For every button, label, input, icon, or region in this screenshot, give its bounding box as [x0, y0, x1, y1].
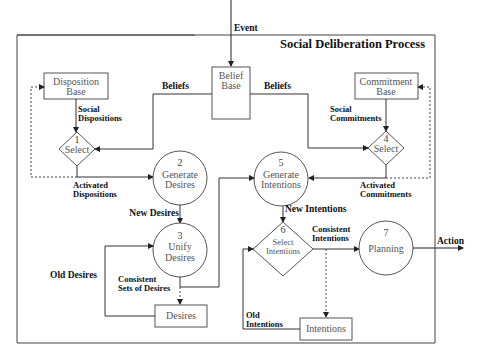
svg-text:2: 2: [178, 157, 183, 168]
event-label: Event: [234, 23, 259, 33]
svg-text:3: 3: [178, 230, 183, 241]
unify-desires-node: 3 Unify Desires: [153, 223, 207, 277]
svg-text:Dispositions: Dispositions: [73, 189, 118, 199]
diagram-title: Social Deliberation Process: [280, 37, 425, 51]
svg-text:Commitments: Commitments: [360, 189, 412, 199]
svg-text:Dispositions: Dispositions: [78, 113, 123, 123]
generate-intentions-node: 5 Generate Intentions: [254, 152, 308, 206]
svg-text:New Intentions: New Intentions: [285, 204, 347, 214]
svg-text:Intentions: Intentions: [266, 246, 300, 256]
svg-text:Desires: Desires: [165, 179, 195, 190]
svg-text:7: 7: [384, 227, 389, 238]
svg-text:Desires: Desires: [166, 310, 196, 321]
disposition-feedback-dashed-edge: [31, 87, 77, 177]
svg-text:Intentions: Intentions: [261, 179, 301, 190]
svg-text:New Desires: New Desires: [129, 208, 179, 218]
old-desires-label: Old Desires: [50, 270, 97, 280]
belief-base-node: Belief Base: [212, 67, 250, 119]
intentions-node: Intentions: [300, 318, 352, 340]
svg-text:Select: Select: [374, 143, 399, 154]
select-1-node: 1 Select: [59, 132, 95, 166]
select-intentions-node: 6 Select Intentions: [253, 222, 313, 276]
svg-text:Base: Base: [66, 86, 86, 97]
svg-text:Desires: Desires: [165, 252, 195, 263]
svg-text:5: 5: [279, 157, 284, 168]
activated-commitments-edge: [309, 165, 386, 178]
svg-text:Base: Base: [376, 86, 396, 97]
beliefs-right-label: Beliefs: [264, 81, 291, 91]
planning-node: 7 Planning: [359, 221, 413, 275]
svg-text:Select: Select: [65, 144, 90, 155]
social-deliberation-diagram: Social Deliberation Process Event Belief…: [0, 0, 483, 360]
activated-dispositions-edge: [77, 166, 153, 177]
svg-text:6: 6: [281, 224, 286, 235]
generate-desires-node: 2 Generate Desires: [153, 151, 207, 205]
svg-text:Base: Base: [221, 80, 241, 91]
svg-text:Planning: Planning: [368, 243, 404, 254]
commitment-base-node: Commitment Base: [355, 73, 418, 99]
beliefs-left-label: Beliefs: [162, 81, 189, 91]
select-4-node: 4 Select: [368, 131, 404, 165]
svg-text:Intentions: Intentions: [306, 323, 346, 334]
action-label: Action: [437, 236, 465, 246]
svg-text:Intentions: Intentions: [246, 319, 284, 329]
disposition-base-node: Disposition Base: [44, 73, 108, 99]
svg-text:Sets of Desires: Sets of Desires: [118, 283, 171, 293]
svg-text:Intentions: Intentions: [312, 233, 350, 243]
commitment-feedback-dashed-edge: [386, 87, 430, 178]
svg-text:Commitments: Commitments: [330, 113, 382, 123]
desires-node: Desires: [155, 305, 207, 327]
svg-text:Unify: Unify: [168, 241, 191, 252]
